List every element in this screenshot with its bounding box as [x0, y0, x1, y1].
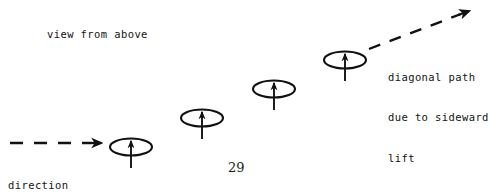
page-number: 29: [228, 160, 245, 175]
diagonal-path-arrowhead: [458, 11, 469, 15]
frisbee-disc-1: [110, 139, 152, 169]
direction-of-throw-line-1: direction: [8, 179, 69, 192]
diagonal-path-line-2: due to sideward: [388, 111, 489, 124]
label-view-from-above: view from above: [47, 28, 148, 41]
label-direction-of-throw: direction of throw: [8, 152, 69, 196]
frisbee-disc-3: [253, 81, 295, 111]
frisbee-disc-2: [181, 110, 223, 140]
label-diagonal-path: diagonal path due to sideward lift: [388, 44, 489, 192]
frisbee-disc-4: [324, 52, 366, 82]
diagonal-path-line-3: lift: [388, 152, 489, 165]
diagonal-path-line-1: diagonal path: [388, 71, 489, 84]
frisbee-flight-diagram: view from above direction of throw diago…: [0, 0, 490, 196]
